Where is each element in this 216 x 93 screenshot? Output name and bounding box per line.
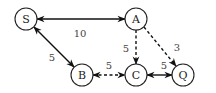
node-s: S xyxy=(15,8,37,30)
node-b: B xyxy=(71,64,93,86)
node-a-label: A xyxy=(131,13,141,26)
node-q-label: Q xyxy=(178,69,187,82)
node-c: C xyxy=(125,64,147,86)
weight-a-q: 3 xyxy=(174,42,180,53)
node-a: A xyxy=(125,8,147,30)
weight-b-c: 5 xyxy=(106,60,112,71)
node-c-label: C xyxy=(132,69,140,82)
weight-s-a: 10 xyxy=(74,28,87,39)
node-b-label: B xyxy=(78,69,86,82)
weight-s-b: 5 xyxy=(49,52,55,63)
weight-c-q: 5 xyxy=(161,60,167,71)
node-q: Q xyxy=(172,64,194,86)
weight-a-c: 5 xyxy=(123,43,129,54)
node-s-label: S xyxy=(22,13,30,26)
graph-diagram: 10 5 5 3 5 5 S A B C Q xyxy=(0,0,216,93)
